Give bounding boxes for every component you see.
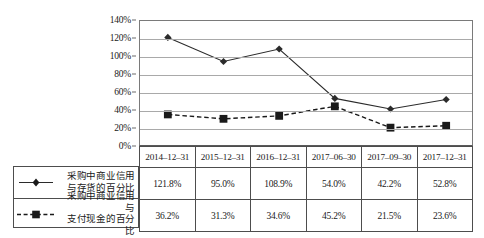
column-header-date: 2017–06–30 [306, 147, 362, 168]
y-axis-tick-label: 40% [114, 105, 131, 115]
chart-figure: 0%20%40%60%80%100%120%140% 采购中商业信用 与存货的百… [0, 0, 484, 238]
y-axis-tick-label: 80% [114, 69, 131, 79]
table-cell-value: 52.8% [417, 168, 473, 200]
column-header-date: 2015–12–31 [195, 147, 251, 168]
legend-label-series-2: 采购中商业信用与 支付现金的百分比 [58, 191, 138, 237]
y-axis-tick-label: 20% [114, 123, 131, 133]
legend-label-series-2-line1: 采购中商业信用与 [67, 191, 135, 213]
data-point-square-marker [387, 124, 395, 132]
data-point-square-marker [220, 115, 228, 123]
data-point-square-marker [275, 112, 283, 120]
column-header-date: 2017–09–30 [362, 147, 418, 168]
data-point-diamond-marker [443, 96, 450, 103]
legend-table: 采购中商业信用 与存货的百分比 采购中商业信用与 支付现金的百分比 [13, 166, 139, 228]
y-axis-tick-mark [132, 92, 136, 93]
gridline [140, 57, 472, 58]
table-cell-value: 31.3% [195, 200, 251, 232]
plot-area [139, 20, 473, 146]
gridline [140, 75, 472, 76]
y-axis-tick-mark [132, 128, 136, 129]
y-axis-tick-label: 120% [110, 33, 131, 43]
table-row-series-2: 36.2%31.3%34.6%45.2%21.5%23.6% [140, 200, 473, 232]
column-header-date: 2017–12–31 [417, 147, 473, 168]
column-header-date: 2014–12–31 [140, 147, 196, 168]
table-cell-value: 21.5% [362, 200, 418, 232]
series-line-2 [168, 106, 446, 127]
gridline [140, 129, 472, 130]
table-cell-value: 54.0% [306, 168, 362, 200]
series-line-1 [168, 37, 446, 109]
legend-swatch-square-icon [14, 199, 58, 229]
data-table: 2014–12–312015–12–312016–12–312017–06–30… [139, 146, 473, 232]
column-header-date: 2016–12–31 [251, 147, 307, 168]
table-row-series-1: 121.8%95.0%108.9%54.0%42.2%52.8% [140, 168, 473, 200]
table-row-header: 2014–12–312015–12–312016–12–312017–06–30… [140, 147, 473, 168]
y-axis-tick-mark [132, 56, 136, 57]
legend-label-series-1-line1: 采购中商业信用 [67, 171, 135, 181]
y-axis-tick-mark [132, 74, 136, 75]
y-axis: 0%20%40%60%80%100%120%140% [96, 20, 136, 146]
y-axis-tick-mark [132, 20, 136, 21]
y-axis-tick-label: 0% [119, 141, 131, 151]
y-axis-tick-label: 60% [114, 87, 131, 97]
y-axis-tick-label: 140% [110, 15, 131, 25]
y-axis-tick-mark [132, 146, 136, 147]
table-cell-value: 42.2% [362, 168, 418, 200]
table-cell-value: 108.9% [251, 168, 307, 200]
gridline [140, 111, 472, 112]
legend-label-series-2-line2: 支付现金的百分比 [67, 214, 135, 236]
table-cell-value: 95.0% [195, 168, 251, 200]
gridline [140, 93, 472, 94]
data-point-square-marker [331, 102, 339, 110]
legend-swatch-diamond-icon [14, 167, 58, 198]
y-axis-tick-mark [132, 38, 136, 39]
y-axis-tick-label: 100% [110, 51, 131, 61]
table-cell-value: 36.2% [140, 200, 196, 232]
legend-row-series-2: 采购中商业信用与 支付现金的百分比 [14, 198, 138, 229]
table-cell-value: 23.6% [417, 200, 473, 232]
table-cell-value: 45.2% [306, 200, 362, 232]
data-point-diamond-marker [220, 58, 227, 65]
table-cell-value: 34.6% [251, 200, 307, 232]
gridline [140, 39, 472, 40]
table-cell-value: 121.8% [140, 168, 196, 200]
y-axis-tick-mark [132, 110, 136, 111]
